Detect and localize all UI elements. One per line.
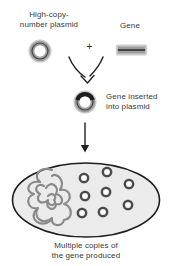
cell-icon xyxy=(13,163,160,237)
plasmid-copy-icon xyxy=(104,190,109,195)
insert-arrow-icon xyxy=(81,123,89,153)
gene-bar-icon xyxy=(117,46,146,55)
recombinant-plasmid-icon xyxy=(77,94,93,110)
plasmid-copy-icon xyxy=(101,210,106,215)
plasmid-label: High-copy- number plasmid xyxy=(6,10,92,30)
caption-line1: Multiple copies of xyxy=(10,241,162,251)
plasmid-icon xyxy=(32,43,48,59)
plasmid-label-line1: High-copy- xyxy=(6,10,92,20)
merge-arrows-icon xyxy=(69,57,103,83)
plasmid-copy-icon xyxy=(127,182,132,187)
caption: Multiple copies of the gene produced xyxy=(10,241,162,261)
plasmid-copy-icon xyxy=(105,170,110,175)
inserted-label: Gene inserted into plasmid xyxy=(106,92,170,112)
gene-label: Gene xyxy=(105,21,155,31)
plasmid-copy-icon xyxy=(82,176,87,181)
plasmid-copy-icon xyxy=(126,203,131,208)
plasmid-copy-icon xyxy=(80,211,85,216)
plasmid-copy-icon xyxy=(83,194,88,199)
inserted-label-line1: Gene inserted xyxy=(106,92,170,102)
plasmid-cloning-diagram: High-copy- number plasmid Gene + Gene in… xyxy=(0,0,172,266)
inserted-label-line2: into plasmid xyxy=(106,102,170,112)
plus-sign: + xyxy=(83,42,96,52)
diagram-canvas xyxy=(0,0,172,266)
plasmid-label-line2: number plasmid xyxy=(6,20,92,30)
caption-line2: the gene produced xyxy=(10,251,162,261)
